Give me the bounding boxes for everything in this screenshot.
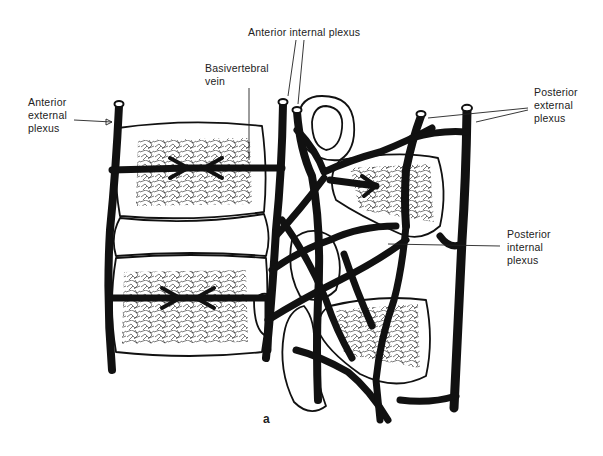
vertebral-body-lower bbox=[112, 255, 267, 356]
label-posterior-external-plexus: Posterior external plexus bbox=[534, 86, 578, 125]
label-anterior-internal-plexus: Anterior internal plexus bbox=[248, 26, 360, 39]
label-posterior-internal-plexus: Posterior internal plexus bbox=[507, 228, 551, 267]
venous-plexus-diagram: Anterior external plexus Basivertebral v… bbox=[0, 0, 603, 456]
intervertebral-disc bbox=[114, 214, 269, 256]
label-basivertebral-vein: Basivertebral vein bbox=[205, 62, 269, 88]
figure-caption: a bbox=[263, 412, 270, 426]
label-anterior-external-plexus: Anterior external plexus bbox=[28, 96, 67, 135]
anterior-external-plexus-veins bbox=[108, 101, 123, 370]
